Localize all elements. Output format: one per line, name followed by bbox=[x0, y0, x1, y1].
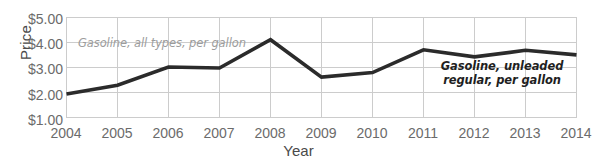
y-tick-label-3: $3.00 bbox=[3, 62, 63, 76]
line-chart: Price $5.00 $4.00 $3.00 $2.00 $1.00 bbox=[0, 0, 597, 163]
x-tick-label-2014: 2014 bbox=[546, 126, 597, 140]
annotation-unleaded-regular-line1: Gasoline, unleaded bbox=[432, 60, 572, 74]
annotation-all-types: Gasoline, all types, per gallon bbox=[78, 37, 246, 51]
y-tick-label-5: $5.00 bbox=[3, 12, 63, 26]
annotation-unleaded-regular-line2: regular, per gallon bbox=[432, 74, 572, 88]
y-tick-label-4: $4.00 bbox=[3, 37, 63, 51]
y-tick-label-2: $2.00 bbox=[3, 88, 63, 102]
annotation-unleaded-regular: Gasoline, unleaded regular, per gallon bbox=[432, 60, 572, 87]
x-axis-title: Year bbox=[0, 142, 597, 159]
